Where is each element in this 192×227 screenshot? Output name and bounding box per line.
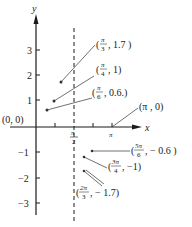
svg-text:, 1): , 1) xyxy=(108,64,121,76)
x-axis-label: x xyxy=(144,122,150,133)
svg-text:π: π xyxy=(101,61,105,69)
svg-text:3: 3 xyxy=(101,45,105,53)
y-tick-neg1: −1 xyxy=(18,147,29,158)
origin-label: (0, 0) xyxy=(2,114,24,126)
svg-text:, −1): , −1) xyxy=(122,161,141,173)
svg-text:(: ( xyxy=(92,87,96,99)
point-label-2pi-3: ( 2π 3 , − 1.7) xyxy=(76,184,119,201)
svg-text:3: 3 xyxy=(82,193,86,201)
svg-text:, 1.7 ): , 1.7 ) xyxy=(108,39,131,51)
x-axis-arrow-icon xyxy=(132,125,142,130)
y-tick-neg3: −3 xyxy=(18,198,29,209)
svg-text:(: ( xyxy=(96,39,100,51)
svg-text:2π: 2π xyxy=(80,184,88,192)
svg-text:, 0.6.): , 0.6.) xyxy=(104,87,127,99)
y-tick-1: 1 xyxy=(27,95,32,106)
direction-field-diagram: y x (0, 0) 3 2 1 −1 −2 −3 π 2 π xyxy=(0,0,192,227)
svg-text:π: π xyxy=(101,36,105,44)
y-tick-2: 2 xyxy=(27,70,32,81)
svg-text:3π: 3π xyxy=(111,158,120,166)
point-label-pi-4: ( π 4 , 1) xyxy=(96,61,121,78)
point-label-pi: (π , 0) xyxy=(139,101,163,113)
point-label-pi-6: ( π 6 , 0.6.) xyxy=(92,84,127,101)
svg-text:(: ( xyxy=(96,64,100,76)
svg-text:6: 6 xyxy=(97,93,101,101)
y-axis-arrow-icon xyxy=(34,14,39,24)
svg-text:, − 0.6 ): , − 0.6 ) xyxy=(145,145,176,157)
svg-text:5π: 5π xyxy=(135,142,143,150)
svg-text:π: π xyxy=(97,84,101,92)
point-label-5pi-6: ( 5π 6 , − 0.6 ) xyxy=(131,142,176,159)
y-tick-3: 3 xyxy=(27,45,32,56)
svg-text:4: 4 xyxy=(101,70,105,78)
y-tick-neg2: −2 xyxy=(18,173,29,184)
svg-text:4: 4 xyxy=(114,167,118,175)
y-axis-label: y xyxy=(31,3,37,14)
point-label-pi-3: ( π 3 , 1.7 ) xyxy=(96,36,131,53)
point-label-3pi-4: ( 3π 4 , −1) xyxy=(108,158,141,175)
svg-text:, − 1.7): , − 1.7) xyxy=(90,187,119,199)
svg-text:6: 6 xyxy=(137,151,141,159)
x-tick-pi: π xyxy=(109,131,113,139)
